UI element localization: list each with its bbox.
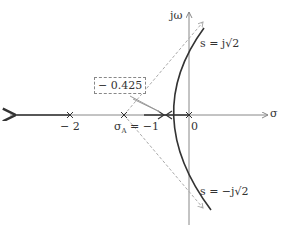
imag-axis-label: jω — [170, 10, 182, 21]
locus-curve — [174, 28, 211, 210]
tick-minus-two: − 2 — [60, 121, 80, 132]
callout-pointer — [130, 96, 160, 112]
centroid-value: = −1 — [127, 120, 159, 133]
centroid-symbol: σ — [114, 120, 122, 133]
real-axis-label: σ — [270, 108, 278, 119]
tick-zero: 0 — [191, 121, 198, 132]
diagram-graphics — [0, 0, 284, 235]
upper-crossing-label: s = j√2 — [200, 38, 239, 49]
root-locus-diagram: jω σ − 2 0 σA = −1 − 0.425 s = j√2 s = −… — [0, 0, 284, 235]
lower-crossing-label: s = −j√2 — [200, 186, 249, 197]
asymptote-upper — [124, 22, 203, 115]
breakaway-callout: − 0.425 — [94, 77, 146, 94]
asymptote-centroid-label: σA = −1 — [114, 121, 159, 135]
